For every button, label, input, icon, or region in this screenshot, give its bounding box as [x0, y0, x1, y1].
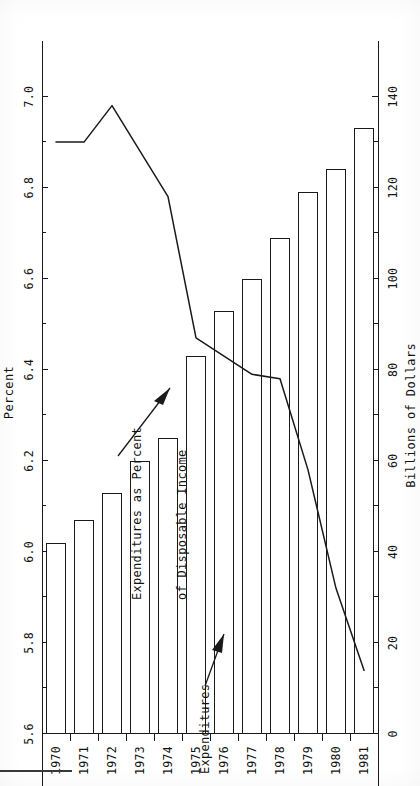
chart-plot-area: 020406080100120140Billions of Dollars5.6… [0, 0, 420, 786]
scan-edge-artifact [0, 770, 72, 772]
rotated-figure: 020406080100120140Billions of Dollars5.6… [0, 0, 420, 786]
line-annotation-text-line1: Expenditures as Percent [130, 427, 145, 600]
bar-annotation-leader [205, 634, 224, 686]
bar-annotation-text: Expenditures [198, 684, 213, 774]
line-annotation-text: Expenditures as Percent of Disposable In… [100, 427, 220, 600]
line-series-overlay [0, 0, 420, 786]
line-annotation-text-line2: of Disposable Income [175, 427, 190, 600]
